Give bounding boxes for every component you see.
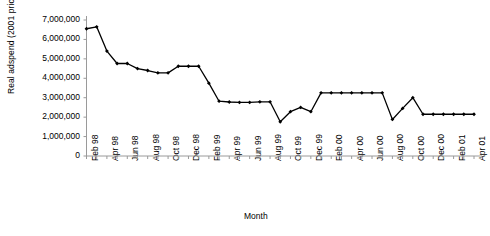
data-point-marker xyxy=(350,91,354,95)
data-point-marker xyxy=(85,27,89,31)
data-point-marker xyxy=(431,112,435,116)
data-point-marker xyxy=(462,112,466,116)
plot-area xyxy=(0,0,490,236)
data-point-marker xyxy=(146,69,150,73)
data-point-marker xyxy=(329,91,333,95)
data-point-marker xyxy=(370,91,374,95)
data-point-marker xyxy=(187,64,191,68)
data-point-marker xyxy=(442,112,446,116)
data-point-marker xyxy=(248,100,252,104)
data-point-marker xyxy=(95,25,99,29)
data-point-marker xyxy=(380,91,384,95)
chart-container: Real adspend (2001 prices) (£) 7,000,000… xyxy=(0,0,490,236)
data-point-marker xyxy=(360,91,364,95)
data-point-marker xyxy=(340,91,344,95)
x-axis-title: Month xyxy=(244,211,268,221)
data-point-marker xyxy=(299,106,303,110)
data-point-marker xyxy=(452,112,456,116)
data-point-marker xyxy=(238,100,242,104)
series-line xyxy=(87,27,475,122)
data-point-marker xyxy=(227,100,231,104)
data-point-marker xyxy=(156,71,160,75)
data-point-marker xyxy=(472,112,476,116)
data-point-marker xyxy=(258,100,262,104)
